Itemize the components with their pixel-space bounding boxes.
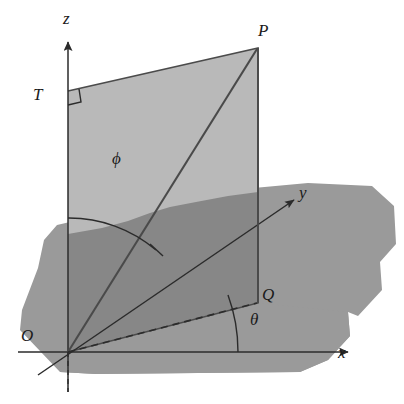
axis-label-z: z — [63, 10, 70, 27]
point-label-p: P — [258, 22, 268, 39]
figure-canvas: x y z O P Q T ϕ θ — [0, 0, 404, 404]
axis-label-x: x — [338, 344, 346, 361]
point-label-q: Q — [262, 286, 274, 303]
point-label-o: O — [21, 327, 33, 344]
angle-label-phi: ϕ — [112, 150, 121, 167]
axis-label-y: y — [299, 184, 307, 201]
angle-label-theta: θ — [250, 311, 258, 328]
point-label-t: T — [33, 86, 42, 103]
